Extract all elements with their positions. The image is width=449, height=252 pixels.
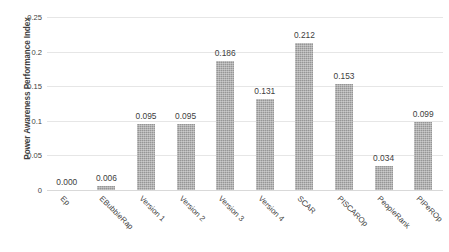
category-slot: Ep <box>47 190 87 252</box>
x-axis-tick-label: Version 3 <box>217 194 246 223</box>
y-axis-tick-label: 0.25 <box>27 13 42 22</box>
category-slot: Version 2 <box>166 190 206 252</box>
x-axis-category-labels: EpEBubbleRapVersion 1Version 2Version 3V… <box>47 190 443 252</box>
bar[interactable] <box>137 124 155 190</box>
bar-slot: 0.006 <box>87 17 127 190</box>
bar-value-label: 0.034 <box>373 153 394 163</box>
bar-value-label: 0.153 <box>334 71 355 81</box>
bar[interactable] <box>256 99 274 190</box>
bar-slot: 0.131 <box>245 17 285 190</box>
bar-slot: 0.212 <box>285 17 325 190</box>
category-slot: PeopleRank <box>364 190 404 252</box>
bar-value-label: 0.212 <box>294 30 315 40</box>
bar[interactable] <box>375 166 393 190</box>
bar-value-label: 0.000 <box>56 177 77 187</box>
y-axis-tick-label: 0.2 <box>31 47 42 56</box>
y-axis-tick-labels: 00.050.10.150.20.25 <box>0 17 45 190</box>
bar-value-label: 0.131 <box>254 86 275 96</box>
category-slot: SCAR <box>285 190 325 252</box>
plot-area: 0.0000.0060.0950.0950.1860.1310.2120.153… <box>47 17 443 190</box>
category-slot: PIPeROp <box>403 190 443 252</box>
y-axis-tick-label: 0.15 <box>27 82 42 91</box>
bar[interactable] <box>177 124 195 190</box>
bar-slot: 0.186 <box>205 17 245 190</box>
category-slot: Version 4 <box>245 190 285 252</box>
category-slot: EBubbleRap <box>87 190 127 252</box>
bar-slot: 0.000 <box>47 17 87 190</box>
category-slot: PISCAROp <box>324 190 364 252</box>
bar-slot: 0.095 <box>166 17 206 190</box>
bar[interactable] <box>414 122 432 191</box>
bar-value-label: 0.095 <box>136 111 157 121</box>
bar-chart: Power Awareness Performance Index 00.050… <box>0 0 449 252</box>
bar[interactable] <box>295 43 313 190</box>
bar-value-label: 0.095 <box>175 111 196 121</box>
bar-slot: 0.034 <box>364 17 404 190</box>
bar-value-label: 0.099 <box>413 109 434 119</box>
bar-value-label: 0.186 <box>215 48 236 58</box>
category-slot: Version 3 <box>205 190 245 252</box>
bars-layer: 0.0000.0060.0950.0950.1860.1310.2120.153… <box>47 17 443 190</box>
x-axis-tick-label: SCAR <box>296 194 318 216</box>
bar-slot: 0.099 <box>403 17 443 190</box>
bar[interactable] <box>335 84 353 190</box>
bar-slot: 0.095 <box>126 17 166 190</box>
x-axis-tick-label: Version 2 <box>177 194 206 223</box>
y-axis-tick-label: 0.05 <box>27 151 42 160</box>
y-axis-tick-label: 0 <box>38 186 42 195</box>
category-slot: Version 1 <box>126 190 166 252</box>
x-axis-tick-label: Version 4 <box>256 194 285 223</box>
y-axis-tick-label: 0.1 <box>31 116 42 125</box>
x-axis-tick-label: Version 1 <box>138 194 167 223</box>
x-axis-tick-label: PIPeROp <box>415 194 445 224</box>
bar-value-label: 0.006 <box>96 173 117 183</box>
bar-slot: 0.153 <box>324 17 364 190</box>
bar[interactable] <box>216 61 234 190</box>
x-axis-tick-label: Ep <box>58 194 71 207</box>
